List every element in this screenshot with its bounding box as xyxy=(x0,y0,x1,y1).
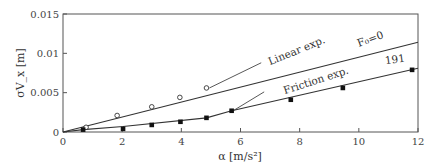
filled-square-marker xyxy=(204,116,209,121)
annotation-label: 191 xyxy=(384,52,406,67)
filled-square-marker xyxy=(149,123,154,128)
annotation-label: F₀=0 xyxy=(355,28,384,49)
filled-square-marker xyxy=(178,119,183,124)
x-tick-label: 2 xyxy=(119,136,125,147)
annotations: Linear exp.Friction exp.F₀=0191 xyxy=(266,28,405,96)
x-tick-label: 4 xyxy=(178,136,184,147)
fit-line xyxy=(63,42,418,132)
filled-square-marker xyxy=(410,68,415,73)
filled-square-marker xyxy=(229,108,234,113)
y-axis-label: σV_x [m] xyxy=(14,48,27,98)
y-tick-label: 0 xyxy=(53,127,59,138)
open-circle-marker xyxy=(149,105,154,110)
open-circle-marker xyxy=(178,95,183,100)
data-points xyxy=(81,68,415,132)
y-tick-label: 0.015 xyxy=(30,9,59,20)
axis-ticks: 02468101200.0050.010.015 xyxy=(30,9,424,148)
y-tick-label: 0.01 xyxy=(37,48,59,59)
x-tick-label: 8 xyxy=(296,136,302,147)
fit-line xyxy=(63,68,418,132)
fit-lines xyxy=(63,42,418,132)
x-tick-label: 6 xyxy=(237,136,243,147)
x-tick-label: 12 xyxy=(412,136,425,147)
annotation-leaders xyxy=(209,63,264,111)
filled-square-marker xyxy=(81,127,86,132)
x-tick-label: 0 xyxy=(60,136,66,147)
open-circle-marker xyxy=(115,113,120,118)
filled-square-marker xyxy=(121,127,126,132)
annotation-label: Linear exp. xyxy=(266,33,326,67)
x-axis-label: α [m/s²] xyxy=(218,150,262,163)
filled-square-marker xyxy=(341,86,346,91)
chart: 02468101200.0050.010.015 Linear exp.Fric… xyxy=(0,0,436,166)
x-tick-label: 10 xyxy=(352,136,365,147)
filled-square-marker xyxy=(288,97,293,102)
open-circle-marker xyxy=(204,86,209,91)
y-tick-label: 0.005 xyxy=(30,87,59,98)
